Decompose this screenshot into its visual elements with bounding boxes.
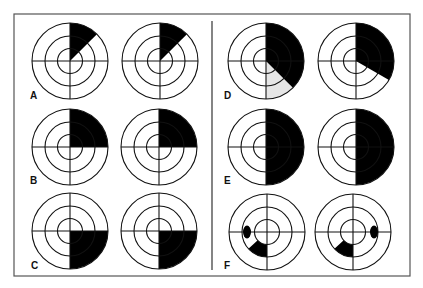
visual-field-figure: ABCDEF xyxy=(0,0,423,288)
visual-field-chart xyxy=(318,109,394,185)
visual-field-chart xyxy=(32,23,108,99)
panel-label: D xyxy=(224,90,231,101)
blind-spot xyxy=(243,226,251,239)
visual-field-chart xyxy=(318,23,394,99)
visual-field-chart xyxy=(315,194,391,270)
visual-field-chart xyxy=(228,109,304,185)
panel-label: E xyxy=(224,175,231,186)
visual-field-chart xyxy=(229,194,305,270)
blind-spot xyxy=(370,226,378,239)
visual-field-chart xyxy=(228,23,304,99)
visual-field-chart xyxy=(32,109,108,185)
visual-field-chart xyxy=(121,193,197,269)
panel-label: C xyxy=(31,260,38,271)
panel-c: C xyxy=(31,193,197,271)
panel-f: F xyxy=(224,194,391,271)
panel-label: F xyxy=(224,260,230,271)
panel-d: D xyxy=(224,23,394,101)
panel-e: E xyxy=(224,109,394,186)
panel-label: B xyxy=(30,175,37,186)
visual-field-chart xyxy=(32,193,108,269)
visual-field-chart xyxy=(122,23,198,99)
panel-label: A xyxy=(30,90,37,101)
visual-field-chart xyxy=(121,109,197,185)
panel-a: A xyxy=(30,23,198,101)
panel-b: B xyxy=(30,109,197,186)
